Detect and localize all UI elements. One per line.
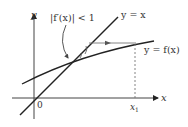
- origin-label: 0: [37, 100, 43, 110]
- condition-label: |f′(x)| < 1: [50, 12, 95, 24]
- iteration-arrow-icon: [105, 41, 111, 45]
- identity-line-label: y = x: [120, 9, 146, 20]
- function-curve-label: y = f(x): [143, 44, 180, 55]
- x-axis-label: x: [161, 92, 167, 103]
- leader-arrow: [62, 25, 68, 58]
- fixed-point-diagram: y x 0 x1 |f′(x)| < 1 y = x y = f(x): [0, 0, 188, 127]
- y-axis-label: y: [30, 9, 37, 20]
- identity-line: [20, 17, 118, 115]
- x1-label: x1: [130, 102, 139, 113]
